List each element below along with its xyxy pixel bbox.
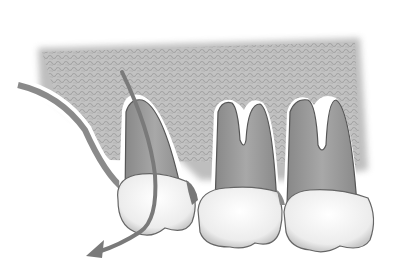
illustration-canvas: [0, 0, 401, 269]
dental-illustration: [0, 0, 401, 269]
arrow-head-icon: [86, 240, 104, 258]
